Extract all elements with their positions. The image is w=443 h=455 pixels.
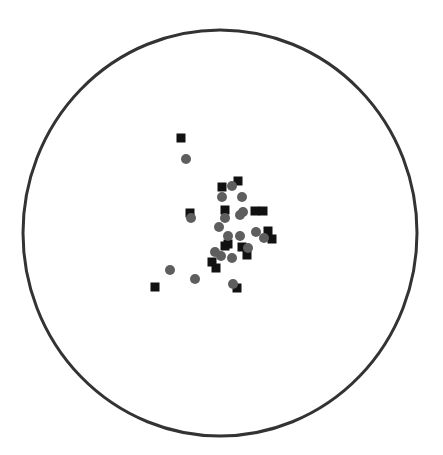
square-marker (259, 207, 268, 216)
circle-marker (235, 231, 245, 241)
square-marker (218, 183, 227, 192)
data-points (151, 134, 277, 293)
circle-marker (251, 227, 261, 237)
circle-marker (214, 222, 224, 232)
circle-marker (228, 279, 238, 289)
circle-marker (165, 265, 175, 275)
square-marker (212, 264, 221, 273)
square-marker (251, 207, 260, 216)
circle-marker (220, 213, 230, 223)
circle-marker (223, 231, 233, 241)
circle-marker (217, 192, 227, 202)
circle-marker (238, 207, 248, 217)
circle-marker (227, 181, 237, 191)
square-marker (221, 242, 230, 251)
circle-marker (227, 253, 237, 263)
square-marker (151, 283, 160, 292)
scatter-plot (0, 0, 443, 455)
circle-marker (186, 213, 196, 223)
circle-marker (243, 243, 253, 253)
square-marker (177, 134, 186, 143)
circle-marker (216, 251, 226, 261)
circle-marker (237, 192, 247, 202)
circle-marker (190, 274, 200, 284)
circle-marker (181, 154, 191, 164)
boundary-circle (23, 30, 417, 436)
circle-marker (259, 233, 269, 243)
